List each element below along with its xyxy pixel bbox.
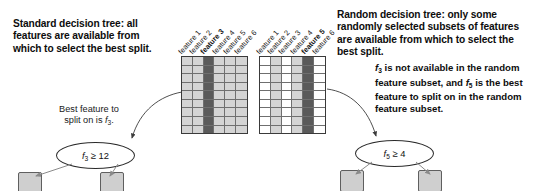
left-split-node[interactable]: f3 ≥ 12 [56, 142, 135, 169]
matrix-cell [225, 117, 236, 126]
matrix-cell [214, 100, 225, 109]
left-leaf-node-b[interactable] [100, 172, 124, 191]
matrix-cell [292, 66, 303, 75]
matrix-cell [182, 91, 193, 100]
matrix-cell [193, 117, 204, 126]
matrix-cell [314, 57, 325, 66]
matrix-cell [260, 74, 271, 83]
matrix-cell [303, 108, 314, 117]
matrix-cell [225, 126, 236, 134]
matrix-cell [314, 66, 325, 75]
matrix-cell [204, 66, 215, 75]
matrix-cell [314, 74, 325, 83]
matrix-cell [193, 66, 204, 75]
matrix-cell [204, 83, 215, 92]
matrix-column-1 [260, 57, 271, 133]
matrix-column-6 [314, 57, 325, 133]
matrix-cell [236, 117, 247, 126]
matrix-cell [260, 83, 271, 92]
matrix-cell [193, 91, 204, 100]
matrix-cell [193, 108, 204, 117]
matrix-cell [303, 57, 314, 66]
matrix-cell [282, 108, 293, 117]
matrix-cell [193, 74, 204, 83]
matrix-cell [204, 100, 215, 109]
right-panel-headline: Random decision tree: only some randomly… [337, 9, 537, 59]
right-feature-label-group: feature 1feature 2feature 3feature 4feat… [259, 10, 349, 56]
right-split-node[interactable]: f5 ≥ 4 [355, 140, 434, 167]
matrix-column-5 [225, 57, 236, 133]
matrix-cell [182, 126, 193, 134]
matrix-column-2 [271, 57, 282, 133]
matrix-cell [193, 57, 204, 66]
matrix-cell [303, 117, 314, 126]
matrix-cell [214, 83, 225, 92]
matrix-cell [282, 91, 293, 100]
matrix-cell [282, 66, 293, 75]
matrix-cell [204, 57, 215, 66]
matrix-cell [225, 74, 236, 83]
matrix-cell [260, 117, 271, 126]
matrix-cell [292, 100, 303, 109]
matrix-column-2 [193, 57, 204, 133]
matrix-cell [182, 74, 193, 83]
left-leaf-node-a[interactable] [18, 172, 42, 191]
matrix-cell [303, 126, 314, 134]
matrix-cell [303, 100, 314, 109]
right-matrix-to-node-arrow [327, 89, 376, 136]
matrix-cell [204, 91, 215, 100]
matrix-cell [292, 91, 303, 100]
matrix-cell [236, 100, 247, 109]
matrix-cell [303, 74, 314, 83]
right-leaf-node-a[interactable] [340, 170, 364, 191]
matrix-cell [204, 74, 215, 83]
matrix-cell [204, 108, 215, 117]
matrix-cell [236, 74, 247, 83]
matrix-cell [214, 74, 225, 83]
matrix-cell [303, 91, 314, 100]
matrix-cell [260, 66, 271, 75]
matrix-cell [204, 126, 215, 134]
matrix-column-3 [282, 57, 293, 133]
matrix-cell [182, 117, 193, 126]
matrix-cell [292, 126, 303, 134]
matrix-cell [193, 126, 204, 134]
matrix-cell [314, 117, 325, 126]
matrix-cell [260, 91, 271, 100]
matrix-cell [282, 126, 293, 134]
matrix-cell [182, 57, 193, 66]
matrix-cell [292, 74, 303, 83]
matrix-cell [225, 66, 236, 75]
matrix-column-3 [204, 57, 215, 133]
matrix-cell [271, 108, 282, 117]
matrix-cell [292, 57, 303, 66]
matrix-cell [236, 83, 247, 92]
matrix-cell [303, 83, 314, 92]
right-leaf-node-b[interactable] [418, 170, 442, 191]
matrix-cell [204, 117, 215, 126]
matrix-cell [292, 117, 303, 126]
left-panel-headline: Standard decision tree: all features are… [13, 18, 181, 55]
matrix-cell [314, 126, 325, 134]
right-split-node-label: f5 ≥ 4 [384, 148, 406, 160]
matrix-cell [182, 100, 193, 109]
matrix-cell [260, 126, 271, 134]
matrix-cell [271, 91, 282, 100]
figure-canvas: Standard decision tree: all features are… [0, 0, 541, 191]
right-feature-matrix [259, 56, 326, 134]
matrix-cell [214, 66, 225, 75]
matrix-cell [182, 108, 193, 117]
matrix-cell [260, 57, 271, 66]
matrix-column-5 [303, 57, 314, 133]
matrix-cell [236, 66, 247, 75]
matrix-cell [282, 74, 293, 83]
matrix-cell [314, 100, 325, 109]
matrix-cell [182, 66, 193, 75]
matrix-cell [282, 117, 293, 126]
matrix-cell [214, 126, 225, 134]
matrix-cell [271, 126, 282, 134]
matrix-cell [292, 108, 303, 117]
matrix-cell [314, 91, 325, 100]
matrix-cell [225, 91, 236, 100]
left-split-node-label: f3 ≥ 12 [82, 150, 109, 162]
